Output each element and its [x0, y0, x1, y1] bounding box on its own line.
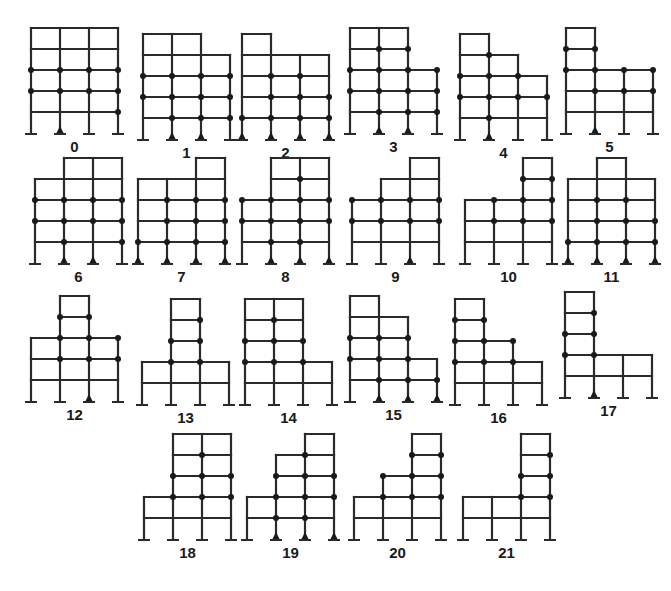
pinned-support-icon [593, 256, 601, 264]
plastic-hinge [547, 452, 553, 458]
plastic-hinge [594, 218, 600, 224]
frame-label: 0 [70, 138, 78, 155]
plastic-hinge [409, 452, 415, 458]
plastic-hinge [405, 335, 411, 341]
plastic-hinge [486, 115, 492, 121]
pinned-support-icon [375, 126, 383, 134]
plastic-hinge [481, 317, 487, 323]
plastic-hinge [326, 197, 332, 203]
pinned-support-icon [163, 256, 171, 264]
plastic-hinge [168, 359, 174, 365]
plastic-hinge [434, 377, 440, 383]
frame-20: 20 [348, 434, 447, 561]
frame-14: 14 [239, 299, 338, 426]
plastic-hinge [623, 239, 629, 245]
plastic-hinge [300, 338, 306, 344]
plastic-hinge [491, 197, 497, 203]
pinned-support-icon [564, 256, 572, 264]
plastic-hinge [331, 473, 337, 479]
plastic-hinge [436, 218, 442, 224]
plastic-hinge [621, 67, 627, 73]
plastic-hinge [407, 197, 413, 203]
plastic-hinge [115, 67, 121, 73]
plastic-hinge [32, 197, 38, 203]
plastic-hinge [518, 494, 524, 500]
plastic-hinge [90, 197, 96, 203]
plastic-hinge [547, 473, 553, 479]
frame-label: 7 [177, 268, 185, 285]
plastic-hinge [452, 317, 458, 323]
plastic-hinge [549, 218, 555, 224]
pinned-support-icon [651, 256, 659, 264]
frame-label: 19 [282, 544, 299, 561]
plastic-hinge [562, 331, 568, 337]
plastic-hinge [331, 494, 337, 500]
pinned-support-icon [192, 256, 200, 264]
pinned-support-icon [622, 256, 630, 264]
frame-label: 20 [389, 544, 406, 561]
plastic-hinge [268, 218, 274, 224]
plastic-hinge [242, 338, 248, 344]
plastic-hinge [452, 338, 458, 344]
plastic-hinge [405, 46, 411, 52]
plastic-hinge [652, 218, 658, 224]
plastic-hinge [438, 473, 444, 479]
plastic-hinge [405, 377, 411, 383]
plastic-hinge [193, 239, 199, 245]
plastic-hinge [302, 515, 308, 521]
frame-8: 8 [236, 158, 335, 285]
plastic-hinge [405, 67, 411, 73]
plastic-hinge [271, 317, 277, 323]
plastic-hinge [61, 197, 67, 203]
pinned-support-icon [485, 132, 493, 140]
plastic-hinge [510, 338, 516, 344]
pinned-support-icon [221, 256, 229, 264]
plastic-hinge [349, 218, 355, 224]
plastic-hinge [380, 494, 386, 500]
frame-label: 1 [182, 144, 190, 161]
plastic-hinge [520, 197, 526, 203]
pinned-support-icon [267, 132, 275, 140]
plastic-hinge [140, 73, 146, 79]
plastic-hinge [376, 109, 382, 115]
pinned-support-icon [406, 256, 414, 264]
plastic-hinge [591, 352, 597, 358]
plastic-hinge [621, 88, 627, 94]
plastic-hinge [32, 218, 38, 224]
plastic-hinge [347, 67, 353, 73]
plastic-hinge [268, 115, 274, 121]
plastic-hinge [405, 109, 411, 115]
plastic-hinge [222, 218, 228, 224]
pinned-support-icon [197, 132, 205, 140]
plastic-hinge [199, 452, 205, 458]
frame-label: 21 [498, 544, 515, 561]
plastic-hinge [326, 115, 332, 121]
plastic-hinge [90, 218, 96, 224]
plastic-hinge [164, 239, 170, 245]
plastic-hinge [222, 239, 228, 245]
plastic-hinge [380, 473, 386, 479]
plastic-hinge [434, 67, 440, 73]
frame-10: 10 [459, 158, 558, 285]
plastic-hinge [436, 197, 442, 203]
plastic-hinge [57, 356, 63, 362]
plastic-hinge [193, 218, 199, 224]
pinned-support-icon [325, 256, 333, 264]
plastic-hinge [115, 335, 121, 341]
plastic-hinge [349, 197, 355, 203]
plastic-hinge [300, 359, 306, 365]
plastic-hinge [302, 494, 308, 500]
pinned-support-icon [272, 532, 280, 540]
plastic-hinge [199, 473, 205, 479]
plastic-hinge [376, 335, 382, 341]
frame-label: 8 [281, 268, 289, 285]
frame-label: 11 [604, 268, 620, 285]
plastic-hinge [434, 109, 440, 115]
plastic-hinge [438, 494, 444, 500]
plastic-hinge [326, 94, 332, 100]
plastic-hinge [520, 218, 526, 224]
plastic-hinge [623, 218, 629, 224]
plastic-hinge [457, 94, 463, 100]
pinned-support-icon [296, 256, 304, 264]
plastic-hinge [376, 356, 382, 362]
